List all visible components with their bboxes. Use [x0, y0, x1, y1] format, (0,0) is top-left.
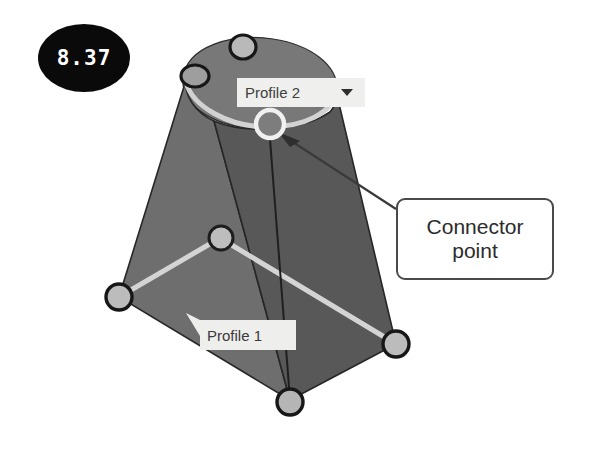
vertex-handle[interactable] — [230, 35, 256, 59]
figure-number-text: 8.37 — [57, 48, 112, 69]
vertex-handle[interactable] — [209, 226, 233, 250]
connector-point-node[interactable] — [256, 110, 284, 138]
connector-point-callout: Connector point — [396, 198, 554, 280]
profile-2-label-text: Profile 2 — [245, 85, 300, 100]
vertex-handle[interactable] — [383, 331, 409, 357]
figure-canvas: 8.37 Profile 2 Profile 1 Connector point — [0, 0, 592, 454]
callout-line-1: Connector — [427, 215, 524, 239]
profile-2-label-chip[interactable]: Profile 2 — [237, 78, 365, 107]
vertex-handle[interactable] — [106, 284, 132, 310]
chevron-down-icon[interactable] — [341, 89, 353, 96]
callout-line-2: point — [452, 239, 498, 263]
figure-number-badge: 8.37 — [38, 24, 130, 92]
vertex-handle[interactable] — [181, 65, 209, 87]
vertex-handle[interactable] — [277, 389, 303, 415]
profile-1-label-chip[interactable]: Profile 1 — [200, 320, 296, 350]
profile-1-label-text: Profile 1 — [207, 328, 262, 343]
